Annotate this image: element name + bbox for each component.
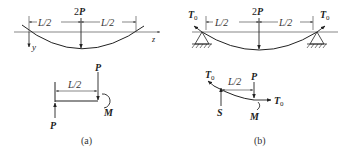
right-pin-support bbox=[307, 32, 327, 48]
figure-a-caption: (a) bbox=[81, 135, 92, 147]
right-tension-arrow bbox=[317, 26, 325, 32]
y-axis-label: y bbox=[31, 42, 36, 52]
figure-a-beam: y z L/2 L/2 2P bbox=[14, 6, 160, 52]
left-span-label: L/2 bbox=[37, 17, 51, 28]
span-label: L/2 bbox=[227, 76, 241, 87]
load-label-2p: 2P bbox=[74, 6, 86, 17]
moment-label: M bbox=[249, 111, 260, 122]
left-tension-label: T0 bbox=[188, 9, 198, 22]
figure-a-free-body: P P L/2 M bbox=[50, 62, 114, 131]
top-force-label: P bbox=[95, 62, 102, 73]
left-tension-label: T0 bbox=[205, 69, 215, 82]
figure-b: T0 T0 L/2 L/2 2P L/2 T0 T0 bbox=[188, 6, 338, 147]
beam-diagram-figure: y z L/2 L/2 2P P P L/2 M bbox=[0, 0, 344, 154]
force-label-p: P bbox=[251, 71, 258, 82]
moment-arc bbox=[257, 102, 260, 110]
left-pin-support bbox=[192, 32, 212, 48]
figure-b-caption: (b) bbox=[254, 135, 266, 147]
deflection-curve bbox=[22, 25, 144, 49]
load-label-2p: 2P bbox=[252, 6, 264, 17]
right-tension-label: T0 bbox=[274, 95, 284, 108]
moment-arc bbox=[102, 94, 110, 108]
cable-curve bbox=[202, 32, 317, 50]
right-span-label: L/2 bbox=[100, 17, 114, 28]
left-tension-arrow bbox=[194, 26, 202, 32]
span-label: L/2 bbox=[67, 79, 81, 90]
figure-b-free-body: L/2 T0 T0 P S M bbox=[205, 69, 284, 122]
figure-a: y z L/2 L/2 2P P P L/2 M bbox=[14, 6, 160, 147]
right-span-label: L/2 bbox=[278, 17, 292, 28]
figure-b-cable: T0 T0 L/2 L/2 2P bbox=[188, 6, 338, 50]
right-tension-label: T0 bbox=[320, 9, 330, 22]
z-axis-label: z bbox=[151, 35, 156, 44]
bottom-force-label: P bbox=[50, 120, 57, 131]
moment-label: M bbox=[103, 107, 114, 118]
cable-segment bbox=[214, 86, 254, 100]
left-span-label: L/2 bbox=[214, 17, 228, 28]
shear-label: S bbox=[217, 107, 223, 118]
